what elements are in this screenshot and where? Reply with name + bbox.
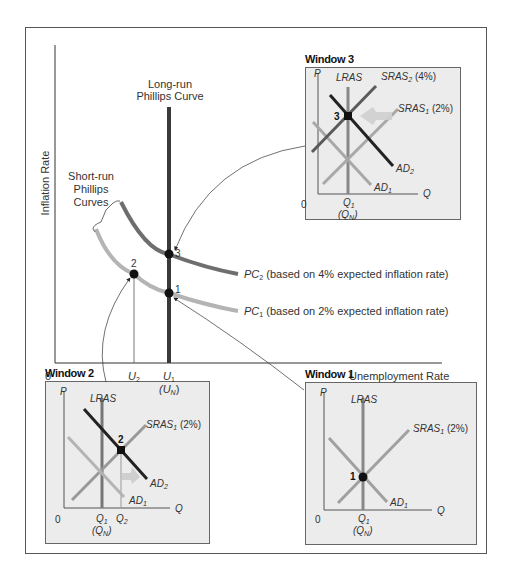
x-axis-label: Unemployment Rate bbox=[349, 370, 449, 382]
y-axis-label: Inflation Rate bbox=[39, 133, 51, 233]
point-2-marker bbox=[130, 270, 139, 279]
w2-p-label: P bbox=[60, 386, 67, 398]
point-2-square bbox=[117, 446, 125, 454]
w1-sras1-label: SRAS1 (2%) bbox=[413, 423, 468, 438]
w1-qn-label: (QN) bbox=[353, 525, 373, 540]
w3-point-label: 3 bbox=[334, 111, 340, 123]
w1-origin-label: 0 bbox=[315, 514, 321, 526]
w2-origin-label: 0 bbox=[55, 514, 61, 526]
window-2-title: Window 2 bbox=[45, 367, 94, 379]
w1-q-label: Q bbox=[437, 505, 445, 517]
w3-sras1-label: SRAS1 (2%) bbox=[398, 103, 453, 118]
point-1-label: 1 bbox=[175, 284, 181, 296]
u2-label: U2 bbox=[128, 370, 140, 386]
srpc-label: Short-run Phillips Curves bbox=[68, 170, 114, 209]
point-3-square bbox=[344, 112, 352, 120]
point-1-marker bbox=[165, 289, 174, 298]
w3-p-label: P bbox=[314, 68, 321, 80]
w2-qn-label: (QN) bbox=[92, 525, 112, 540]
un-label: (UN) bbox=[159, 383, 179, 399]
diagram-graphics bbox=[0, 0, 510, 577]
point-2-label: 2 bbox=[131, 258, 137, 270]
shift-left-arrow bbox=[360, 107, 392, 125]
w3-origin-label: 0 bbox=[301, 199, 307, 211]
w2-point-label: 2 bbox=[118, 434, 124, 446]
w2-ad2-label: AD2 bbox=[150, 478, 168, 493]
w1-lras-label: LRAS bbox=[351, 394, 377, 406]
point-3-marker bbox=[165, 250, 174, 259]
point-1-dot bbox=[359, 473, 368, 482]
arrow-window2-to-point2 bbox=[102, 278, 130, 382]
w2-q2-label: Q2 bbox=[116, 513, 128, 528]
w1-point-label: 1 bbox=[350, 471, 356, 483]
w2-q-label: Q bbox=[175, 503, 183, 515]
pc2-label: PC2 (based on 4% expected inflation rate… bbox=[244, 268, 448, 284]
arrow-window3-to-point3 bbox=[175, 146, 305, 250]
w1-p-label: P bbox=[320, 387, 327, 399]
w3-ad1-label: AD1 bbox=[374, 182, 392, 197]
w3-ad2-label: AD2 bbox=[396, 163, 414, 178]
lrpc-label: Long-run Phillips Curve bbox=[134, 78, 206, 102]
w1-ad1-label: AD1 bbox=[390, 497, 408, 512]
point-3-label: 3 bbox=[175, 248, 181, 260]
pc1-label: PC1 (based on 2% expected inflation rate… bbox=[244, 305, 448, 321]
window-3-title: Window 3 bbox=[305, 53, 354, 65]
window-1-graph bbox=[324, 392, 432, 510]
w3-lras-label: LRAS bbox=[336, 72, 362, 84]
w2-lras-label: LRAS bbox=[90, 393, 116, 405]
w2-sras1-label: SRAS1 (2%) bbox=[146, 419, 201, 434]
w3-q-label: Q bbox=[423, 188, 431, 200]
w3-qn-label: (QN) bbox=[338, 209, 358, 224]
w3-sras2-label: SRAS2 (4%) bbox=[381, 71, 436, 86]
window-1-title: Window 1 bbox=[305, 368, 354, 380]
pc2-curve bbox=[121, 202, 238, 274]
w2-ad1-label: AD1 bbox=[129, 495, 147, 510]
